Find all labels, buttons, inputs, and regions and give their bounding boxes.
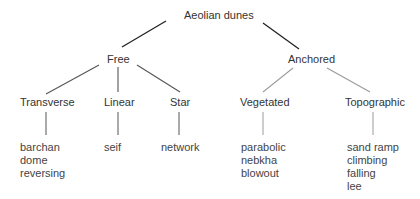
edge-free-transverse (46, 65, 99, 94)
example-item: sand ramp (347, 141, 399, 154)
example-item: nebkha (241, 154, 286, 167)
example-item: blowout (241, 167, 286, 180)
edge-root-anchored (263, 23, 299, 49)
node-free: Free (107, 53, 130, 66)
example-item: lee (347, 180, 399, 193)
edge-anchored-vegetated (263, 68, 293, 92)
edge-root-free (122, 21, 166, 47)
node-star: Star (170, 96, 190, 109)
example-item: network (161, 141, 200, 154)
node-linear: Linear (104, 96, 135, 109)
example-item: parabolic (241, 141, 286, 154)
linear-examples: seif (104, 141, 121, 154)
node-root: Aeolian dunes (184, 9, 254, 22)
example-item: falling (347, 167, 399, 180)
vegetated-examples: parabolic nebkha blowout (241, 141, 286, 180)
edge-anchored-topographic (327, 68, 370, 92)
example-item: reversing (20, 167, 65, 180)
example-item: climbing (347, 154, 399, 167)
example-item: dome (20, 154, 65, 167)
node-topographic: Topographic (345, 96, 405, 109)
edge-free-star (137, 65, 180, 92)
transverse-examples: barchan dome reversing (20, 141, 65, 180)
star-examples: network (161, 141, 200, 154)
topographic-examples: sand ramp climbing falling lee (347, 141, 399, 193)
example-item: barchan (20, 141, 65, 154)
example-item: seif (104, 141, 121, 154)
node-anchored: Anchored (288, 53, 335, 66)
dune-classification-diagram: Aeolian dunes Free Anchored Transverse L… (0, 0, 420, 199)
node-transverse: Transverse (20, 96, 75, 109)
node-vegetated: Vegetated (240, 96, 290, 109)
